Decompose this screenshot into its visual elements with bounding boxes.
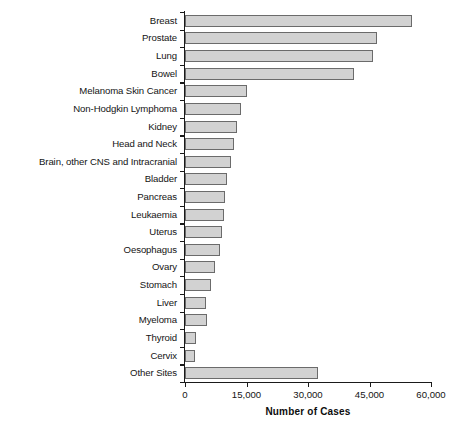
- bar: [185, 314, 207, 326]
- x-axis-title: Number of Cases: [185, 406, 431, 417]
- bar: [185, 138, 234, 150]
- bar: [185, 297, 206, 309]
- y-axis-tick: [180, 12, 184, 13]
- x-axis-tick-label: 0: [182, 389, 187, 400]
- y-axis-tick: [180, 188, 184, 189]
- y-axis-tick: [180, 118, 184, 119]
- y-axis-tick-label: Prostate: [0, 33, 177, 43]
- y-axis-tick: [180, 223, 184, 224]
- y-axis-tick: [180, 276, 184, 277]
- bar: [185, 350, 195, 362]
- bar: [185, 244, 220, 256]
- y-axis-tick-label: Stomach: [0, 280, 177, 290]
- y-axis-tick-label: Oesophagus: [0, 245, 177, 255]
- y-axis-line: [184, 11, 185, 383]
- y-axis-tick-label: Ovary: [0, 262, 177, 272]
- y-axis-tick-label: Cervix: [0, 351, 177, 361]
- x-axis-tick: [308, 383, 309, 387]
- bar: [185, 261, 215, 273]
- bar: [185, 226, 222, 238]
- y-axis-tick-label: Brain, other CNS and Intracranial: [0, 157, 177, 167]
- bar: [185, 85, 247, 97]
- y-axis-tick-label: Kidney: [0, 122, 177, 132]
- y-axis-tick: [180, 241, 184, 242]
- y-axis-tick-label: Other Sites: [0, 368, 177, 378]
- y-axis-tick: [180, 364, 184, 365]
- bar: [185, 173, 227, 185]
- y-axis-tick-label: Thyroid: [0, 333, 177, 343]
- y-axis-tick-label: Breast: [0, 16, 177, 26]
- x-axis-tick-label: 15,000: [232, 389, 261, 400]
- y-axis-tick: [180, 82, 184, 83]
- y-axis-tick: [180, 47, 184, 48]
- bar: [185, 209, 224, 221]
- x-axis-tick-label: 30,000: [293, 389, 322, 400]
- y-axis-tick-label: Myeloma: [0, 315, 177, 325]
- bar: [185, 68, 354, 80]
- y-axis-tick-label: Lung: [0, 51, 177, 61]
- bar: [185, 332, 196, 344]
- y-axis-tick: [180, 206, 184, 207]
- y-axis-tick: [180, 30, 184, 31]
- y-axis-tick: [180, 153, 184, 154]
- x-axis-tick: [370, 383, 371, 387]
- y-axis-tick-label: Uterus: [0, 227, 177, 237]
- y-axis-tick-label: Non-Hodgkin Lymphoma: [0, 104, 177, 114]
- y-axis-tick: [180, 294, 184, 295]
- y-axis-tick-label: Pancreas: [0, 192, 177, 202]
- y-axis-tick-label: Bowel: [0, 69, 177, 79]
- bar: [185, 279, 211, 291]
- y-axis-tick-label: Liver: [0, 298, 177, 308]
- bar: [185, 32, 377, 44]
- x-axis-tick: [185, 383, 186, 387]
- x-axis-tick-label: 60,000: [416, 389, 445, 400]
- y-axis-tick-label: Head and Neck: [0, 139, 177, 149]
- bar: [185, 367, 318, 379]
- y-axis-tick: [180, 259, 184, 260]
- bar: [185, 103, 241, 115]
- y-axis-tick: [180, 65, 184, 66]
- x-axis-tick-label: 45,000: [355, 389, 384, 400]
- y-axis-tick-label: Leukaemia: [0, 210, 177, 220]
- y-axis-tick: [180, 100, 184, 101]
- plot-area: [185, 12, 431, 382]
- bar-chart: BreastProstateLungBowelMelanoma Skin Can…: [0, 0, 460, 429]
- y-axis-tick: [180, 347, 184, 348]
- bar: [185, 121, 237, 133]
- y-axis-tick: [180, 312, 184, 313]
- y-axis-tick: [180, 329, 184, 330]
- y-axis-tick-label: Melanoma Skin Cancer: [0, 86, 177, 96]
- y-axis-tick: [180, 135, 184, 136]
- y-axis-tick: [180, 171, 184, 172]
- x-axis-tick: [247, 383, 248, 387]
- bar: [185, 191, 225, 203]
- x-axis-tick: [431, 383, 432, 387]
- y-axis-tick-label: Bladder: [0, 174, 177, 184]
- bar: [185, 156, 231, 168]
- bar: [185, 15, 412, 27]
- bar: [185, 50, 373, 62]
- y-axis-labels: BreastProstateLungBowelMelanoma Skin Can…: [0, 12, 177, 382]
- y-axis-tick: [180, 382, 184, 383]
